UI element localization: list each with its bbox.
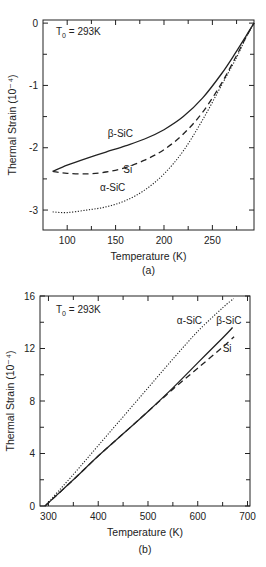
series-label: α-SiC [177,315,202,326]
x-tick-label: 200 [156,235,173,246]
series-line [53,23,254,171]
reference-temperature-annotation: T0 = 293K [56,304,101,317]
panel-label: (a) [142,264,155,276]
plot-frame [40,296,250,506]
x-tick-label: 250 [204,235,221,246]
series-line [53,23,254,213]
series-line [45,328,233,507]
x-tick-label: 700 [239,511,256,522]
x-axis-title: Temperature (K) [107,526,183,538]
series-line [45,299,234,506]
y-tick-label: 0 [29,501,35,512]
figure: 1001502002500-1-2-3Temperature (K)Therma… [0,0,266,567]
plot-frame [43,20,254,230]
y-axis-title: Thermal Strain (10⁻⁴) [4,351,16,452]
series-label: β-SiC [216,315,241,326]
series-label: Si [123,164,132,175]
y-tick-label: 4 [29,448,35,459]
y-tick-label: 12 [24,343,36,354]
x-tick-label: 500 [140,511,157,522]
y-tick-label: 16 [24,291,36,302]
y-tick-label: -2 [29,142,38,153]
series-line [53,23,254,174]
y-axis-title: Thermal Strain (10⁻⁴) [6,75,18,176]
series-label: α-SiC [100,182,125,193]
panel-label: (b) [139,543,152,555]
x-tick-label: 300 [40,511,57,522]
y-tick-label: 0 [32,18,38,29]
x-tick-label: 150 [107,235,124,246]
chart-b-thermal-strain-high-temp: 3004005006007000481216Temperature (K)The… [0,280,266,567]
x-tick-label: 400 [90,511,107,522]
series-label: β-SiC [108,128,133,139]
y-tick-label: 8 [29,396,35,407]
x-axis-title: Temperature (K) [111,250,187,262]
y-tick-label: -1 [29,80,38,91]
chart-a-thermal-strain-low-temp: 1001502002500-1-2-3Temperature (K)Therma… [0,0,266,280]
series-label: Si [223,343,232,354]
reference-temperature-annotation: T0 = 293K [56,26,101,39]
y-tick-label: -3 [29,205,38,216]
x-tick-label: 100 [59,235,76,246]
x-tick-label: 600 [189,511,206,522]
